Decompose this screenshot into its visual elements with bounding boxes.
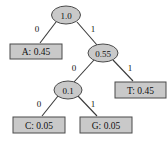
edge-node01-to-leaf-c <box>42 96 58 116</box>
tree-edges <box>40 22 133 116</box>
edge-label-node055-right: 1 <box>128 63 133 73</box>
edge-label-node01-left: 0 <box>37 99 42 109</box>
leaf-label-a: A: 0.45 <box>22 47 51 57</box>
tree-svg: A: 0.45 T: 0.45 C: 0.05 G: 0.05 1.0 0.55… <box>0 0 168 144</box>
node-root-label: 1.0 <box>60 11 72 21</box>
leaf-label-t: T: 0.45 <box>127 86 154 96</box>
node-055-label: 0.55 <box>95 49 111 59</box>
edge-root-to-leaf-a <box>40 22 56 43</box>
huffman-tree-diagram: A: 0.45 T: 0.45 C: 0.05 G: 0.05 1.0 0.55… <box>0 0 168 144</box>
edge-label-node055-left: 0 <box>72 63 77 73</box>
leaf-label-c: C: 0.05 <box>25 121 53 131</box>
edge-label-root-left: 0 <box>35 24 40 34</box>
edge-label-node01-right: 1 <box>91 99 96 109</box>
tree-leaves: A: 0.45 T: 0.45 C: 0.05 G: 0.05 <box>10 44 166 133</box>
node-01-label: 0.1 <box>62 86 73 96</box>
edge-label-root-right: 1 <box>91 24 96 34</box>
leaf-label-g: G: 0.05 <box>92 121 121 131</box>
edge-node055-to-node01 <box>74 60 94 82</box>
